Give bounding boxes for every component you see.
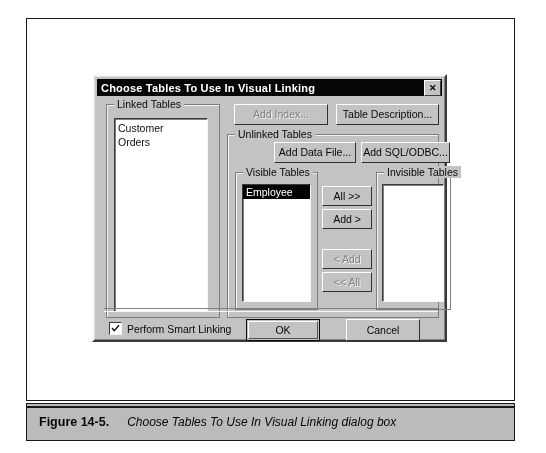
cancel-label: Cancel bbox=[367, 324, 400, 336]
add-index-label: Add Index... bbox=[253, 108, 309, 120]
list-item[interactable]: Employee bbox=[243, 185, 310, 199]
dialog-title-bar[interactable]: Choose Tables To Use In Visual Linking ✕ bbox=[97, 79, 442, 96]
table-description-label: Table Description... bbox=[343, 108, 432, 120]
add-data-file-label: Add Data File... bbox=[279, 146, 351, 158]
choose-tables-dialog: Choose Tables To Use In Visual Linking ✕… bbox=[92, 74, 447, 342]
add-left-button[interactable]: < Add bbox=[322, 249, 372, 269]
figure-number: Figure 14-5. bbox=[27, 415, 109, 429]
all-right-button[interactable]: All >> bbox=[322, 186, 372, 206]
add-right-label: Add > bbox=[333, 213, 361, 225]
ok-button[interactable]: OK bbox=[246, 319, 320, 341]
smart-linking-checkbox[interactable]: Perform Smart Linking bbox=[109, 322, 231, 335]
add-index-button[interactable]: Add Index... bbox=[234, 104, 328, 125]
linked-tables-list[interactable]: Customer Orders bbox=[114, 118, 208, 312]
linked-tables-label: Linked Tables bbox=[114, 98, 184, 110]
table-description-button[interactable]: Table Description... bbox=[336, 104, 439, 125]
add-data-file-button[interactable]: Add Data File... bbox=[274, 142, 356, 163]
invisible-tables-label: Invisible Tables bbox=[384, 166, 461, 178]
figure-caption-bar: Figure 14-5. Choose Tables To Use In Vis… bbox=[26, 403, 515, 441]
visible-tables-list[interactable]: Employee bbox=[242, 184, 311, 302]
all-left-button[interactable]: << All bbox=[322, 272, 372, 292]
caption-top-rule bbox=[27, 406, 514, 408]
cancel-button[interactable]: Cancel bbox=[346, 319, 420, 341]
all-right-label: All >> bbox=[334, 190, 361, 202]
checkbox-checked-icon[interactable] bbox=[109, 322, 122, 335]
figure-title: Choose Tables To Use In Visual Linking d… bbox=[109, 415, 396, 429]
dialog-title: Choose Tables To Use In Visual Linking bbox=[97, 82, 315, 94]
add-sql-odbc-button[interactable]: Add SQL/ODBC... bbox=[361, 142, 450, 163]
list-item[interactable]: Orders bbox=[115, 135, 207, 149]
close-icon[interactable]: ✕ bbox=[424, 80, 441, 96]
ok-label: OK bbox=[275, 324, 290, 336]
smart-linking-label: Perform Smart Linking bbox=[127, 323, 231, 335]
footer-separator bbox=[104, 308, 438, 312]
unlinked-tables-label: Unlinked Tables bbox=[235, 128, 315, 140]
all-left-label: << All bbox=[334, 276, 360, 288]
add-right-button[interactable]: Add > bbox=[322, 209, 372, 229]
add-sql-odbc-label: Add SQL/ODBC... bbox=[363, 146, 448, 158]
visible-tables-label: Visible Tables bbox=[243, 166, 313, 178]
invisible-tables-list[interactable] bbox=[382, 184, 444, 302]
list-item[interactable]: Customer bbox=[115, 121, 207, 135]
add-left-label: < Add bbox=[333, 253, 360, 265]
